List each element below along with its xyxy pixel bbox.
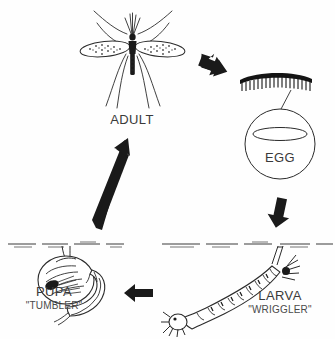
- mosquito-adult-icon: [72, 6, 192, 114]
- arrow-egg-to-larva: [266, 196, 296, 230]
- water-surface-line-pupa: [8, 242, 124, 247]
- stage-label-pupa: PUPA: [14, 284, 94, 299]
- egg-closeup-icon: [242, 106, 318, 182]
- stage-label-larva: LARVA: [235, 288, 325, 303]
- stage-sublabel-larva: "WRIGGLER": [235, 304, 325, 315]
- larva-head: [161, 312, 187, 337]
- stage-adult: [72, 6, 192, 114]
- mosquito-wing-left: [79, 39, 130, 59]
- mosquito-body: [129, 33, 137, 75]
- arrow-down-icon: [266, 196, 296, 230]
- stage-sublabel-pupa: "TUMBLER": [8, 300, 100, 311]
- water-surface-line-larva: [162, 242, 333, 247]
- larva-tail-brush: [282, 255, 300, 280]
- arrow-up-right-icon: [92, 138, 140, 230]
- mosquito-pupa-icon: [6, 238, 126, 328]
- stage-label-adult: ADULT: [72, 112, 192, 127]
- arrow-larva-to-pupa: [122, 281, 156, 305]
- arrow-left-icon: [122, 281, 156, 305]
- mosquito-wing-right: [134, 39, 185, 59]
- stage-label-egg: EGG: [250, 150, 310, 165]
- stage-pupa: [6, 238, 126, 328]
- mosquito-life-cycle-diagram: ADULT EGG: [0, 0, 335, 339]
- arrow-pupa-to-adult: [92, 138, 140, 230]
- arrow-down-right-icon: [196, 52, 232, 82]
- arrow-adult-to-egg: [196, 52, 232, 82]
- egg-magnifier: [242, 106, 318, 182]
